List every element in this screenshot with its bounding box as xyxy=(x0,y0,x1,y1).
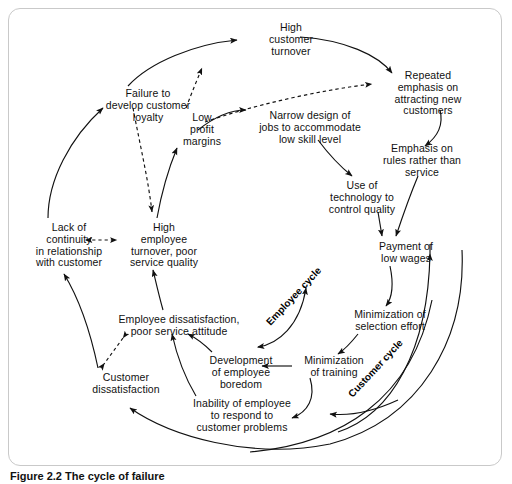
node-high-customer-turnover: High customer turnover xyxy=(248,22,334,57)
edge-wages-to-selection xyxy=(386,266,392,306)
edge-customer-dissatisfaction-to-continuity xyxy=(64,274,98,368)
node-high-employee-turnover: High employee turnover, poor service qua… xyxy=(118,222,210,269)
node-customer-dissatisfaction: Customer dissatisfaction xyxy=(80,372,172,396)
edge-narrow-design-to-technology xyxy=(318,140,352,176)
node-repeated-emphasis: Repeated emphasis on attracting new cust… xyxy=(378,70,478,117)
node-low-profit-margins: Low profit margins xyxy=(174,112,230,147)
edge-technology-to-wages xyxy=(378,212,382,236)
edge-dissatisfaction-customer-bidirectional xyxy=(104,338,123,364)
figure-caption: Figure 2.2 The cycle of failure xyxy=(10,470,165,482)
edge-loyalty-to-employee-turnover xyxy=(133,108,152,212)
node-payment-low-wages: Payment of low wages xyxy=(366,241,446,265)
edge-inability-to-dissatisfaction xyxy=(172,334,196,396)
edge-dissatisfaction-to-employee-turnover xyxy=(153,270,163,310)
node-emphasis-rules: Emphasis on rules rather than service xyxy=(370,143,474,178)
edge-continuity-to-loyalty xyxy=(48,108,103,218)
node-lack-of-continuity: Lack of continuity in relationship with … xyxy=(22,222,116,269)
node-inability-to-respond: Inability of employee to respond to cust… xyxy=(180,398,304,433)
edge-loyalty-to-customer-turnover xyxy=(128,40,237,86)
edge-selection-to-training xyxy=(338,334,358,354)
node-employee-dissatisfaction: Employee dissatisfaction, poor service a… xyxy=(106,314,252,338)
node-use-of-technology: Use of technology to control quality xyxy=(318,180,406,215)
node-narrow-design-jobs: Narrow design of jobs to accommodate low… xyxy=(244,110,376,145)
node-minimization-selection: Minimization of selection effort xyxy=(340,309,440,333)
node-development-boredom: Development of employee boredom xyxy=(200,355,282,390)
edge-employee-turnover-to-profit xyxy=(157,148,177,218)
